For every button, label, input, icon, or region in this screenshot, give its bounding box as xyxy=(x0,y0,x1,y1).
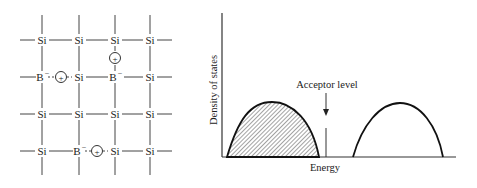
atom-si: Si xyxy=(74,71,83,83)
hole-plus: + xyxy=(58,73,63,83)
atom-si: Si xyxy=(74,108,83,120)
atom-si: Si xyxy=(110,108,119,120)
hole-plus: + xyxy=(112,54,117,64)
diagram-canvas: Si Si Si Si B − Si B − Si Si Si Si Si Si… xyxy=(0,0,477,188)
boron-charge: − xyxy=(82,143,87,152)
atom-si: Si xyxy=(110,145,119,157)
hole-plus: + xyxy=(94,147,99,157)
atom-boron: B xyxy=(36,71,43,83)
atom-si: Si xyxy=(145,34,154,46)
atom-boron: B xyxy=(73,145,80,157)
hole: + xyxy=(92,146,103,157)
atom-si: Si xyxy=(145,145,154,157)
horizontal-bonds xyxy=(20,40,172,151)
y-axis-label: Density of states xyxy=(208,55,219,125)
density-of-states-chart: Density of states Energy Acceptor level xyxy=(208,13,456,173)
atom-boron: B xyxy=(109,71,116,83)
arrow-down-icon xyxy=(323,109,329,116)
x-axis-label: Energy xyxy=(310,162,341,173)
atom-si: Si xyxy=(74,34,83,46)
atom-si: Si xyxy=(145,71,154,83)
atom-si: Si xyxy=(37,108,46,120)
boron-charge: − xyxy=(118,69,123,78)
atom-si: Si xyxy=(110,34,119,46)
hole: + xyxy=(110,53,121,64)
acceptor-level-label: Acceptor level xyxy=(296,79,358,90)
atom-si: Si xyxy=(37,34,46,46)
conduction-band-curve xyxy=(353,103,443,157)
atom-si: Si xyxy=(37,145,46,157)
valence-band-curve xyxy=(227,102,319,157)
atom-si: Si xyxy=(145,108,154,120)
silicon-lattice: Si Si Si Si B − Si B − Si Si Si Si Si Si… xyxy=(20,15,172,175)
boron-charge: − xyxy=(45,69,50,78)
hole: + xyxy=(56,72,67,83)
